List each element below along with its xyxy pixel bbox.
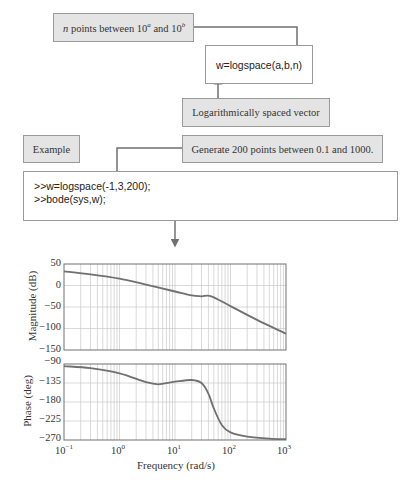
x-tick: 103 (277, 443, 291, 456)
mag-tick: 0 (56, 279, 61, 290)
mag-tick: −150 (39, 343, 61, 354)
magnitude-axis-label: Magnitude (dB) (26, 266, 38, 346)
mag-tick: −100 (39, 321, 61, 332)
phase-tick: −180 (39, 394, 61, 405)
phase-grid (64, 364, 286, 440)
phase-tick: −135 (39, 375, 61, 386)
phase-axis-label: Phase (deg) (21, 366, 33, 436)
x-tick: 101 (167, 443, 181, 456)
mag-tick: 50 (51, 257, 62, 268)
magnitude-grid (64, 264, 286, 350)
phase-tick: −225 (39, 413, 61, 424)
x-tick: 100 (111, 443, 125, 456)
frequency-axis-label: Frequency (rad/s) (137, 459, 215, 471)
phase-tick: −270 (39, 432, 61, 443)
bode-plots (0, 0, 413, 488)
x-tick: 102 (222, 443, 236, 456)
x-tick: 10−1 (55, 443, 73, 456)
phase-tick: −90 (45, 355, 61, 366)
mag-tick: −50 (45, 300, 61, 311)
